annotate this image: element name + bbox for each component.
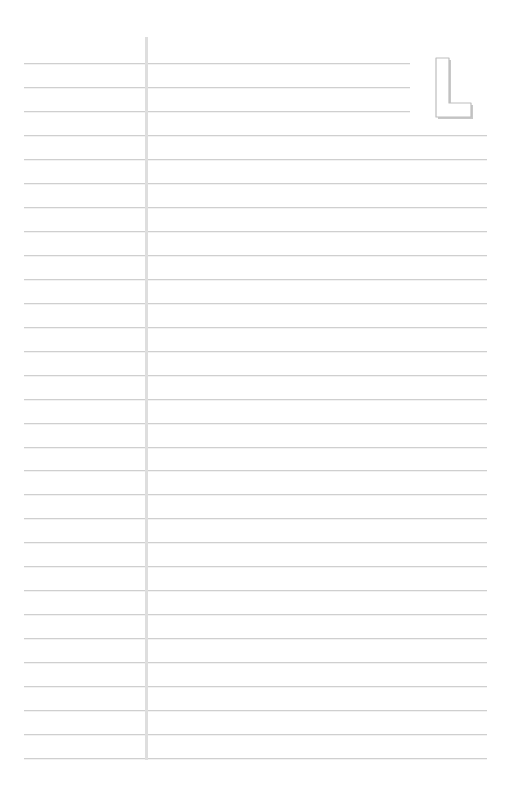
ruled-line <box>24 255 487 256</box>
ruled-line <box>24 87 410 88</box>
ruled-line <box>24 494 487 495</box>
ruled-line <box>24 710 487 711</box>
ruled-line <box>24 231 487 232</box>
ruled-line <box>24 638 487 639</box>
ruled-line <box>24 351 487 352</box>
ruled-line <box>24 470 487 471</box>
ruled-line <box>24 303 487 304</box>
ruled-line <box>24 63 410 64</box>
ruled-line <box>24 183 487 184</box>
ruled-line <box>24 279 487 280</box>
ruled-line <box>24 135 487 136</box>
ruled-line <box>24 662 487 663</box>
ruled-line <box>24 758 487 759</box>
ruled-line <box>24 518 487 519</box>
ruled-line <box>24 686 487 687</box>
ruled-line <box>24 423 487 424</box>
notebook-page <box>0 0 507 786</box>
ruled-line <box>24 447 487 448</box>
ruled-line <box>24 566 487 567</box>
ruled-line <box>24 111 410 112</box>
ruled-line <box>24 542 487 543</box>
ruled-line <box>24 590 487 591</box>
ruled-line <box>24 327 487 328</box>
margin-line <box>145 37 148 760</box>
ruled-line <box>24 399 487 400</box>
ruled-line <box>24 159 487 160</box>
letter-l-icon <box>434 56 478 122</box>
ruled-line <box>24 614 487 615</box>
ruled-line <box>24 734 487 735</box>
ruled-line <box>24 375 487 376</box>
ruled-line <box>24 207 487 208</box>
